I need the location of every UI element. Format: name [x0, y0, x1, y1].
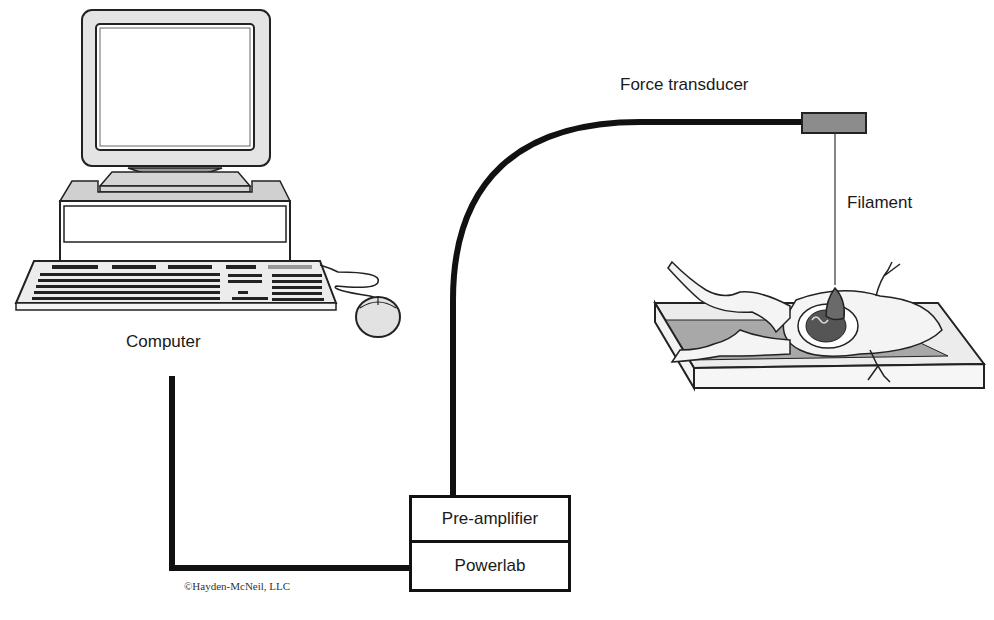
force-transducer-label: Force transducer	[620, 75, 749, 95]
pre-amplifier-box: Pre-amplifier	[409, 495, 571, 543]
filament-label: Filament	[847, 193, 912, 213]
powerlab-label: Powerlab	[455, 556, 526, 576]
frog-tray-icon	[655, 262, 984, 388]
computer-powerlab-cable	[172, 376, 409, 568]
copyright-text: ©Hayden-McNeil, LLC	[184, 580, 290, 592]
powerlab-box: Powerlab	[409, 540, 571, 592]
force-transducer-icon	[802, 113, 866, 133]
computer-label: Computer	[126, 332, 201, 352]
pre-amplifier-label: Pre-amplifier	[442, 509, 538, 529]
computer-icon	[16, 10, 400, 337]
